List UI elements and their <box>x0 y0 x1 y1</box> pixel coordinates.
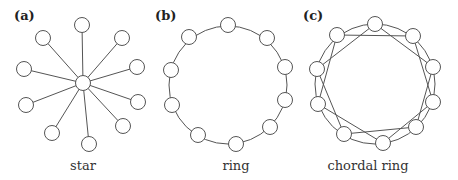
star-leaf-node <box>36 31 51 46</box>
ring-node <box>182 30 197 45</box>
panel-ring: (b) ring <box>155 8 293 173</box>
star-nodes <box>17 18 146 152</box>
ring-node <box>263 120 278 135</box>
ring-node <box>337 127 352 142</box>
network-topology-figure: (a) star (b) ring (c) chordal ring <box>0 0 458 180</box>
ring-node <box>221 18 236 33</box>
star-leaf-node <box>45 126 60 141</box>
ring-nodes <box>164 18 293 152</box>
chordal-ring-nodes <box>310 17 441 151</box>
star-leaf-node <box>82 137 97 152</box>
ring-node <box>310 62 325 77</box>
panel-star: (a) star <box>14 8 146 173</box>
ring-node <box>330 28 345 43</box>
ring-node <box>311 97 326 112</box>
ring-node <box>165 98 180 113</box>
star-leaf-node <box>19 98 34 113</box>
star-edge <box>83 67 137 83</box>
chord-edge <box>337 35 413 36</box>
star-leaf-node <box>115 31 130 46</box>
ring-node <box>191 128 206 143</box>
star-edge <box>43 38 83 83</box>
ring-node <box>260 31 275 46</box>
star-leaf-node <box>130 60 145 75</box>
ring-node <box>368 17 383 32</box>
panel-chordal-ring: (c) chordal ring <box>303 8 441 173</box>
panel-label-c: (c) <box>303 8 323 23</box>
chord-edge <box>383 102 433 143</box>
star-edge <box>26 83 83 105</box>
star-edge <box>24 69 83 83</box>
chord-edge <box>375 24 433 67</box>
star-edge <box>82 25 83 83</box>
chord-edge <box>344 127 416 134</box>
ring-node <box>426 95 441 110</box>
ring-node <box>406 29 421 44</box>
caption-chordal-ring: chordal ring <box>327 158 408 173</box>
star-hub-node <box>76 76 91 91</box>
star-leaf-node <box>17 62 32 77</box>
ring-node <box>229 137 244 152</box>
star-leaf-node <box>75 18 90 33</box>
ring-node <box>278 93 293 108</box>
star-leaf-node <box>116 119 131 134</box>
ring-node <box>426 60 441 75</box>
star-leaf-node <box>131 95 146 110</box>
panel-label-a: (a) <box>14 8 35 23</box>
ring-node <box>278 60 293 75</box>
star-edge <box>52 83 83 133</box>
ring-node <box>376 136 391 151</box>
caption-star: star <box>70 158 97 173</box>
star-edge <box>83 38 122 83</box>
ring-node <box>164 63 179 78</box>
caption-ring: ring <box>222 158 249 173</box>
panel-label-b: (b) <box>155 8 176 23</box>
chord-edge <box>317 24 375 69</box>
star-edge <box>83 83 89 144</box>
ring-node <box>409 120 424 135</box>
